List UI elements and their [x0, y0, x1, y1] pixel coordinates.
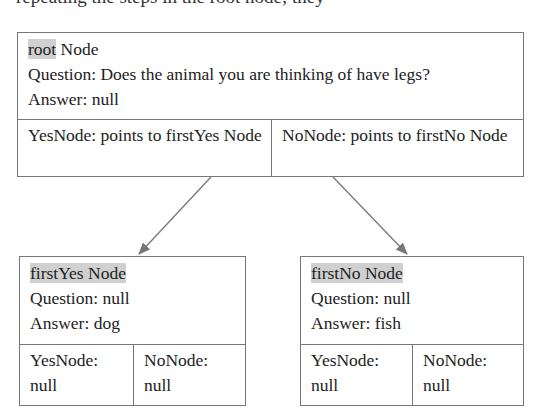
arrow-to-first-no-icon: [333, 177, 407, 254]
connector-arrows: [0, 0, 544, 418]
arrow-to-first-yes-icon: [139, 177, 211, 254]
